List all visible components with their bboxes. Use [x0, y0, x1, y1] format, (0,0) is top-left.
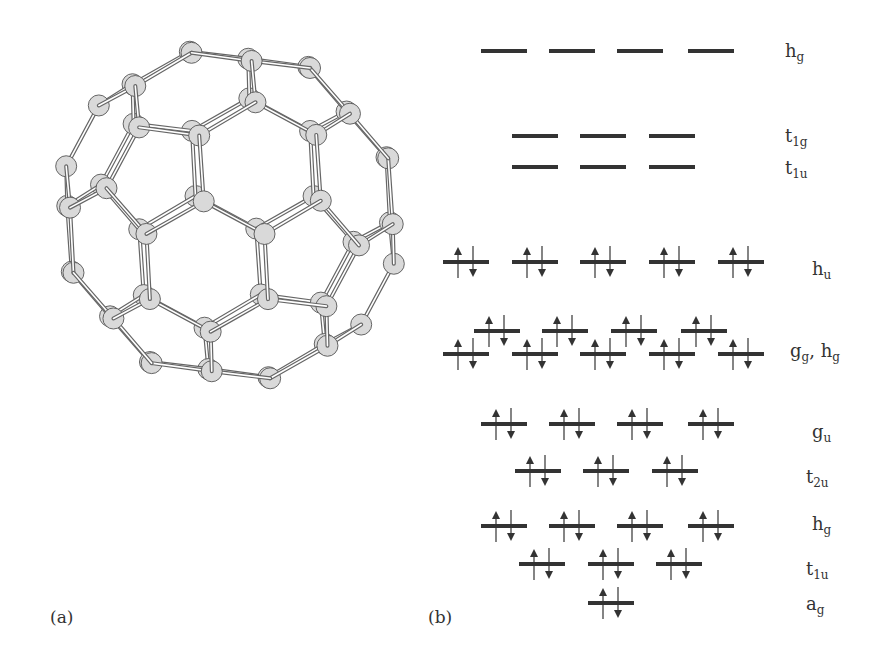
orbital: [443, 246, 489, 278]
orbital: [656, 548, 702, 580]
orbital: [688, 408, 734, 440]
panel-b-label: (b): [428, 607, 452, 627]
orbital: [481, 510, 527, 542]
symmetry-label-t2u: t2u: [806, 466, 829, 490]
orbital: [580, 338, 626, 370]
panel-a-label: (a): [50, 607, 73, 627]
orbital: [652, 455, 698, 487]
orbital: [512, 338, 558, 370]
orbital: [617, 49, 663, 53]
orbital: [515, 455, 561, 487]
orbital: [649, 338, 695, 370]
orbital: [580, 246, 626, 278]
orbital: [549, 408, 595, 440]
symmetry-label-hg-occ: hg: [812, 513, 831, 537]
level-hg-empty: [481, 49, 734, 53]
orbital: [718, 246, 764, 278]
orbital: [443, 338, 489, 370]
orbital: [519, 548, 565, 580]
level-t1u-empty: [512, 165, 695, 169]
level-hg-lower: [443, 338, 764, 370]
orbital: [649, 246, 695, 278]
orbital: [481, 49, 527, 53]
level-gu: [481, 408, 734, 440]
symmetry-label-gg: gg, hg: [790, 340, 840, 364]
orbital: [718, 338, 764, 370]
symmetry-label-t1g: t1g: [785, 125, 808, 149]
orbital: [512, 134, 558, 138]
symmetry-label-gu: gu: [812, 421, 831, 445]
orbital: [474, 315, 520, 347]
level-t2u: [515, 455, 698, 487]
orbital: [681, 315, 727, 347]
mo-energy-level-diagram: [0, 0, 877, 656]
orbital: [583, 455, 629, 487]
orbital: [649, 134, 695, 138]
level-t1g: [512, 134, 695, 138]
orbital: [512, 246, 558, 278]
symmetry-label-t1u-occ: t1u: [806, 558, 829, 582]
level-hg-occ: [481, 510, 734, 542]
orbital: [588, 587, 634, 619]
symmetry-label-t1u-empty: t1u: [785, 157, 808, 181]
orbital: [580, 165, 626, 169]
level-t1u-occ: [519, 548, 702, 580]
symmetry-label-ag: ag: [806, 593, 824, 617]
orbital: [588, 548, 634, 580]
symmetry-label-hg-empty: hg: [785, 40, 804, 64]
level-gg: [474, 315, 727, 347]
orbital: [688, 49, 734, 53]
symmetry-label-hu: hu: [812, 258, 831, 282]
orbital: [617, 408, 663, 440]
orbital: [512, 165, 558, 169]
level-ag: [588, 587, 634, 619]
orbital: [481, 408, 527, 440]
level-hu: [443, 246, 764, 278]
orbital: [580, 134, 626, 138]
orbital: [549, 49, 595, 53]
orbital: [611, 315, 657, 347]
orbital: [688, 510, 734, 542]
orbital: [549, 510, 595, 542]
orbital: [649, 165, 695, 169]
orbital: [542, 315, 588, 347]
orbital: [617, 510, 663, 542]
